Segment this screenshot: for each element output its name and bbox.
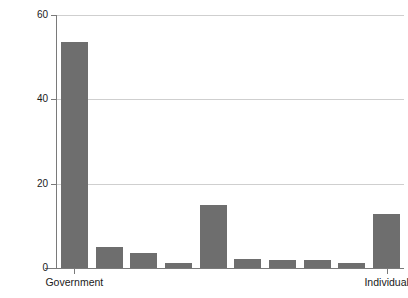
y-tick-label: 20 <box>8 179 48 189</box>
bar <box>373 214 400 268</box>
x-axis-line <box>45 268 404 269</box>
x-tick-label: Individual <box>364 276 408 289</box>
y-tick-label: 40 <box>8 94 48 104</box>
bar <box>165 263 192 268</box>
gridline <box>57 99 404 100</box>
x-tick-mark <box>387 269 388 274</box>
y-tick-label: 60 <box>8 10 48 20</box>
x-tick-label: Government <box>45 276 103 289</box>
bar <box>234 259 261 268</box>
x-tick-mark <box>74 269 75 274</box>
gridline <box>57 184 404 185</box>
bar <box>304 260 331 268</box>
gridline <box>57 15 404 16</box>
chart-screenshot: Percent 0204060 GovernmentIndividual <box>0 0 408 298</box>
bar <box>269 260 296 268</box>
y-tick-label: 0 <box>8 263 48 273</box>
bar <box>61 42 88 268</box>
plot-area <box>57 15 404 268</box>
bar <box>130 253 157 268</box>
bar <box>96 247 123 269</box>
y-tick-mark <box>51 268 57 269</box>
bar <box>200 205 227 268</box>
bar <box>338 263 365 268</box>
